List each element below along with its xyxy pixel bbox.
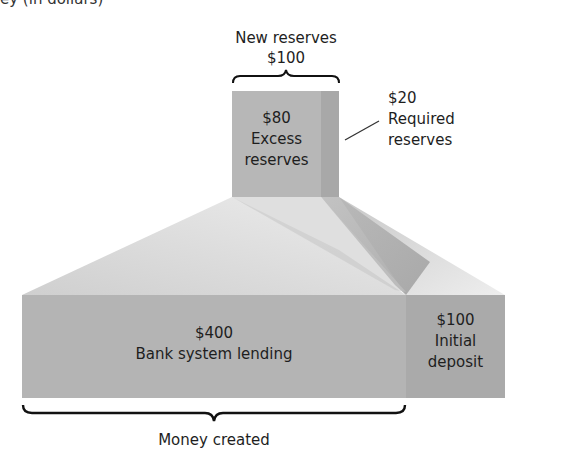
required-reserves-leader-line xyxy=(345,121,379,140)
excess-label-line1: Excess xyxy=(232,129,321,150)
expansion-fan xyxy=(22,197,505,295)
lending-amount: $400 xyxy=(22,323,406,344)
required-label-line2: reserves xyxy=(388,130,508,151)
bank-lending-text: $400 Bank system lending xyxy=(22,323,406,365)
required-label-line1: Required xyxy=(388,109,508,130)
initial-deposit-text: $100 Initial deposit xyxy=(406,310,505,373)
deposit-label-line2: deposit xyxy=(406,352,505,373)
required-amount: $20 xyxy=(388,88,508,109)
new-reserves-brace xyxy=(233,70,339,83)
lending-label: Bank system lending xyxy=(22,344,406,365)
new-reserves-amount: $100 xyxy=(210,48,362,68)
deposit-amount: $100 xyxy=(406,310,505,331)
excess-amount: $80 xyxy=(232,108,321,129)
required-reserves-text: $20 Required reserves xyxy=(388,88,508,151)
money-created-label: Money created xyxy=(114,430,314,450)
required-reserves-strip xyxy=(321,91,339,197)
new-reserves-label: New reserves xyxy=(210,28,362,48)
deposit-label-line1: Initial xyxy=(406,331,505,352)
money-created-brace xyxy=(23,405,405,421)
excess-reserves-text: $80 Excess reserves xyxy=(232,108,321,171)
excess-label-line2: reserves xyxy=(232,150,321,171)
money-creation-diagram xyxy=(0,0,572,460)
